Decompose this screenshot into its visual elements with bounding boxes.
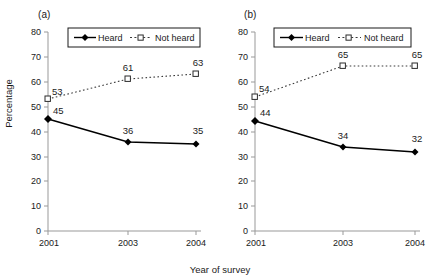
y-tick-label: 10 xyxy=(31,201,41,211)
y-tick-label: 40 xyxy=(31,127,41,137)
x-axis-title: Year of survey xyxy=(190,264,250,275)
data-label-not-heard: 65 xyxy=(338,49,349,60)
x-tick-label: 2003 xyxy=(118,238,138,248)
legend-heard-label: Heard xyxy=(98,33,123,43)
data-label-not-heard: 61 xyxy=(123,62,134,73)
data-label-not-heard: 54 xyxy=(259,83,270,94)
y-tick-label: 0 xyxy=(36,226,41,236)
legend-panel-a: Heard Not heard xyxy=(68,28,200,47)
x-ticks xyxy=(48,231,196,235)
x-tick-label: 2001 xyxy=(246,238,266,248)
data-label-not-heard: 65 xyxy=(412,49,423,60)
data-label-not-heard: 63 xyxy=(193,57,204,68)
y-tick-label: 70 xyxy=(31,52,41,62)
data-label-heard: 32 xyxy=(412,133,423,144)
data-label-heard: 35 xyxy=(193,125,204,136)
panel-b: (b) xyxy=(210,0,431,279)
legend-not-heard-label: Not heard xyxy=(155,33,195,43)
data-label-not-heard: 53 xyxy=(52,86,63,97)
y-tick-label: 0 xyxy=(243,226,248,236)
y-tick-label: 20 xyxy=(31,176,41,186)
y-tick-label: 20 xyxy=(238,176,248,186)
panel-a-plot: 0 10 20 30 40 50 60 70 80 2001 2003 2004 xyxy=(0,0,215,279)
x-ticks xyxy=(255,231,415,235)
legend-heard-label: Heard xyxy=(305,33,330,43)
data-label-heard: 44 xyxy=(260,107,271,118)
y-tick-label: 70 xyxy=(238,52,248,62)
y-tick-label: 30 xyxy=(238,152,248,162)
y-tick-label: 40 xyxy=(238,127,248,137)
legend-not-heard-marker-icon xyxy=(346,35,351,40)
y-tick-label: 10 xyxy=(238,201,248,211)
y-tick-label: 30 xyxy=(31,152,41,162)
legend-panel-b: Heard Not heard xyxy=(274,28,411,47)
x-tick-label: 2004 xyxy=(186,238,206,248)
y-ticks xyxy=(44,32,48,231)
figure: (a) Percentage xyxy=(0,0,431,279)
series-heard-line xyxy=(255,121,415,152)
y-tick-label: 50 xyxy=(238,102,248,112)
data-label-heard: 34 xyxy=(338,130,349,141)
panel-a: (a) Percentage xyxy=(0,0,215,279)
series-not-heard-markers xyxy=(45,71,198,101)
y-tick-label: 80 xyxy=(31,27,41,37)
y-ticks xyxy=(251,32,255,231)
legend-not-heard-marker-icon xyxy=(138,35,143,40)
series-not-heard-line xyxy=(255,66,415,97)
y-tick-label: 80 xyxy=(238,27,248,37)
x-tick-label: 2004 xyxy=(405,238,425,248)
data-label-heard: 45 xyxy=(53,105,64,116)
series-not-heard-line xyxy=(48,74,196,99)
y-tick-label: 60 xyxy=(31,77,41,87)
x-tick-label: 2001 xyxy=(39,238,59,248)
y-tick-label: 60 xyxy=(238,77,248,87)
panel-b-plot: 0 10 20 30 40 50 60 70 80 2001 2003 2004 xyxy=(210,0,431,279)
y-tick-label: 50 xyxy=(31,102,41,112)
legend-not-heard-label: Not heard xyxy=(364,33,404,43)
data-label-heard: 36 xyxy=(123,125,134,136)
x-axis-title-wrap: Year of survey xyxy=(40,259,400,277)
x-tick-label: 2003 xyxy=(333,238,353,248)
